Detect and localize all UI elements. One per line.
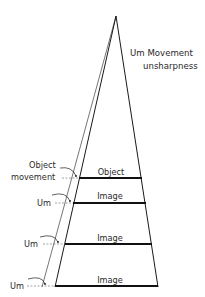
image-label-2: Image (97, 233, 123, 243)
title-line-1: Um Movement (130, 48, 194, 58)
um-label-3: Um (10, 281, 24, 291)
image-label-1: Image (97, 191, 123, 201)
object-movement-label-1: Object (29, 160, 56, 170)
title-line-2: unsharpness (143, 61, 198, 71)
image-label-3: Image (97, 275, 123, 285)
arrow-object-movement (60, 168, 76, 176)
um-label-2: Um (24, 239, 38, 249)
cone-left-edge (55, 16, 116, 287)
movement-unsharpness-diagram: Um Movement unsharpness Object Image Ima… (0, 0, 205, 297)
object-label: Object (98, 167, 125, 177)
movement-ray (42, 16, 116, 287)
object-movement-label-2: movement (11, 172, 56, 182)
um-label-1: Um (37, 198, 51, 208)
arrow-um-3 (28, 278, 45, 284)
